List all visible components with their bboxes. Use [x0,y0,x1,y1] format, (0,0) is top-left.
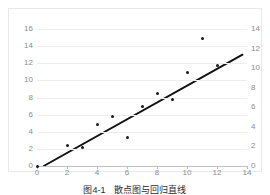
x-axis-tick-label: 2 [65,169,69,177]
x-axis-tick-label: 14 [243,169,252,177]
data-point [81,146,84,149]
x-tick-mark [97,166,98,169]
x-axis-tick-label: 6 [125,169,129,177]
data-point [201,37,204,40]
data-point [216,64,219,67]
y-axis-right-tick-label: 14 [251,25,260,33]
y-axis-right-tick-label: 2 [251,142,255,150]
gridline [37,98,247,99]
gridline [37,80,247,81]
x-tick-mark [217,166,218,169]
gridline [37,149,247,150]
y-axis-left-tick-label: 16 [24,25,33,33]
y-axis-left-tick-label: 14 [24,42,33,50]
y-axis-right: 02468101214 [251,29,270,166]
data-point [96,123,99,126]
figure-caption: 图4-1 散点图与回归直线 [0,184,270,195]
y-axis-left-tick-label: 6 [29,111,33,119]
y-axis-right-tick-label: 10 [251,64,260,72]
y-axis-left-tick-label: 8 [29,94,33,102]
data-point [36,165,39,168]
y-axis-left-tick-label: 12 [24,59,33,67]
gridline [37,115,247,116]
y-axis-right-tick-label: 12 [251,45,260,53]
x-tick-mark [157,166,158,169]
y-axis-right-tick-label: 0 [251,162,255,170]
y-axis-left-tick-label: 0 [29,162,33,170]
plot-area [37,29,247,166]
data-point [126,136,129,139]
x-axis: 02468101214 [37,169,247,181]
x-axis-tick-label: 10 [183,169,192,177]
y-axis-left-tick-label: 2 [29,145,33,153]
y-axis-left: 0246810121416 [9,29,33,166]
gridline [37,29,247,30]
data-point [141,105,144,108]
x-axis-line [37,166,247,167]
x-tick-mark [67,166,68,169]
x-tick-mark [187,166,188,169]
x-axis-tick-label: 4 [95,169,99,177]
y-axis-right-tick-label: 4 [251,123,255,131]
y-axis-left-tick-label: 4 [29,128,33,136]
y-axis-left-tick-label: 10 [24,76,33,84]
data-point [156,92,159,95]
x-tick-mark [127,166,128,169]
data-point [171,98,174,101]
y-axis-right-tick-label: 6 [251,103,255,111]
y-axis-right-tick-label: 8 [251,84,255,92]
x-axis-tick-label: 0 [35,169,39,177]
gridline [37,46,247,47]
data-point [111,115,114,118]
x-axis-tick-label: 12 [213,169,222,177]
scatter-figure: 0246810121416 02468101214 02468101214 图4… [0,0,270,195]
gridline [37,132,247,133]
data-point [186,71,189,74]
x-axis-tick-label: 8 [155,169,159,177]
chart-frame: 0246810121416 02468101214 02468101214 [8,8,262,172]
x-tick-mark [247,166,248,169]
